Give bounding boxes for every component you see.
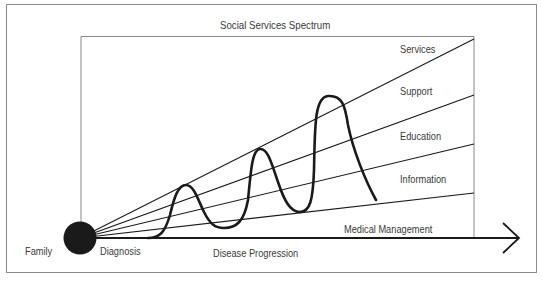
band-label-support: Support <box>400 85 432 97</box>
band-label-education: Education <box>400 130 441 142</box>
x-axis-label: Disease Progression <box>213 247 298 259</box>
family-label: Family <box>25 245 52 257</box>
diagnosis-point <box>64 222 97 255</box>
diagnosis-label: Diagnosis <box>100 245 141 257</box>
band-label-services: Services <box>400 43 435 55</box>
band-label-medical-management: Medical Management <box>344 223 432 235</box>
diagram-canvas <box>0 0 542 281</box>
band-label-information: Information <box>400 173 446 185</box>
diagram-title: Social Services Spectrum <box>220 19 330 31</box>
support-line <box>80 95 474 238</box>
